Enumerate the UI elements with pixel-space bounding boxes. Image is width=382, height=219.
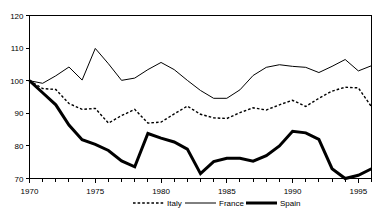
- x-tick-label-1980: 1980: [152, 187, 170, 196]
- y-tick-label-100: 100: [10, 77, 24, 86]
- data-series-group: [30, 48, 372, 178]
- series-line-spain: [30, 81, 372, 179]
- y-tick-label-80: 80: [15, 142, 24, 151]
- x-tick-label-1990: 1990: [284, 187, 302, 196]
- series-line-france: [30, 48, 372, 98]
- legend-label-spain: Spain: [280, 199, 300, 208]
- legend-label-france: France: [219, 199, 244, 208]
- x-axis-ticks: [30, 179, 372, 184]
- y-tick-label-110: 110: [11, 44, 24, 53]
- y-tick-label-120: 120: [10, 12, 24, 21]
- y-axis-ticks: [26, 16, 30, 179]
- x-tick-label-1970: 1970: [21, 187, 39, 196]
- y-tick-label-70: 70: [15, 175, 24, 184]
- chart-legend: ItalyFranceSpain: [133, 199, 300, 208]
- x-tick-label-1985: 1985: [218, 187, 236, 196]
- y-axis-tick-labels: 708090100110120: [10, 12, 24, 184]
- x-tick-label-1975: 1975: [86, 187, 104, 196]
- legend-label-italy: Italy: [167, 199, 182, 208]
- series-line-italy: [30, 81, 372, 123]
- x-tick-label-1995: 1995: [349, 187, 367, 196]
- x-axis-tick-labels: 197019751980198519901995: [21, 187, 368, 196]
- chart-container: 708090100110120 197019751980198519901995…: [0, 0, 382, 219]
- y-tick-label-90: 90: [15, 109, 24, 118]
- line-chart: 708090100110120 197019751980198519901995…: [0, 0, 382, 219]
